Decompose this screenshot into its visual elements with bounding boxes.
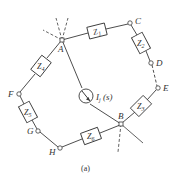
figure-caption: (a)	[81, 164, 90, 173]
wire-z1-c	[106, 24, 128, 29]
wire-z6-h	[62, 139, 82, 147]
svg-text:E: E	[162, 83, 169, 93]
impedance-z1: Z1	[87, 23, 107, 39]
node-a: A	[57, 38, 64, 54]
node-f: F	[7, 89, 21, 99]
wire-f-z4	[20, 74, 35, 92]
node-b: B	[118, 111, 124, 126]
wire-d-e-dashed	[152, 65, 157, 86]
svg-text:B: B	[118, 111, 124, 121]
impedance-z2: Z2	[131, 32, 150, 54]
wire-z5-f	[20, 96, 24, 104]
impedance-z3: Z3	[130, 95, 152, 117]
svg-text:A: A	[57, 44, 64, 54]
svg-text:Ij (s): Ij (s)	[95, 92, 112, 103]
svg-text:C: C	[135, 16, 142, 26]
node-d: D	[149, 58, 163, 68]
branches-a-dashed	[43, 18, 68, 40]
wire-z2-d	[146, 51, 150, 61]
wire-e-z3	[147, 90, 156, 100]
svg-text:F: F	[7, 89, 14, 99]
wire-c-z2	[131, 25, 137, 35]
branches-b-dashed	[118, 124, 143, 152]
wire-b-z6	[100, 125, 120, 133]
node-g: G	[27, 126, 40, 136]
svg-text:D: D	[155, 58, 163, 68]
wire-source-b	[90, 104, 121, 124]
node-e: E	[156, 83, 169, 93]
node-h: H	[48, 146, 62, 157]
svg-text:H: H	[48, 147, 56, 157]
impedance-z6: Z6	[80, 127, 101, 145]
current-source: Ij (s)	[79, 89, 112, 103]
circuit-diagram: A B C D E F G H Z1 Z2 Z3 Z4	[0, 0, 178, 185]
impedance-z5: Z5	[18, 101, 37, 123]
node-c: C	[128, 16, 142, 26]
svg-text:G: G	[27, 126, 34, 136]
wire-a-source	[62, 40, 82, 88]
wire-h-g	[40, 132, 58, 147]
wire-a-z1	[62, 33, 88, 40]
impedance-z4: Z4	[31, 55, 52, 77]
wire-z3-b	[122, 112, 135, 123]
